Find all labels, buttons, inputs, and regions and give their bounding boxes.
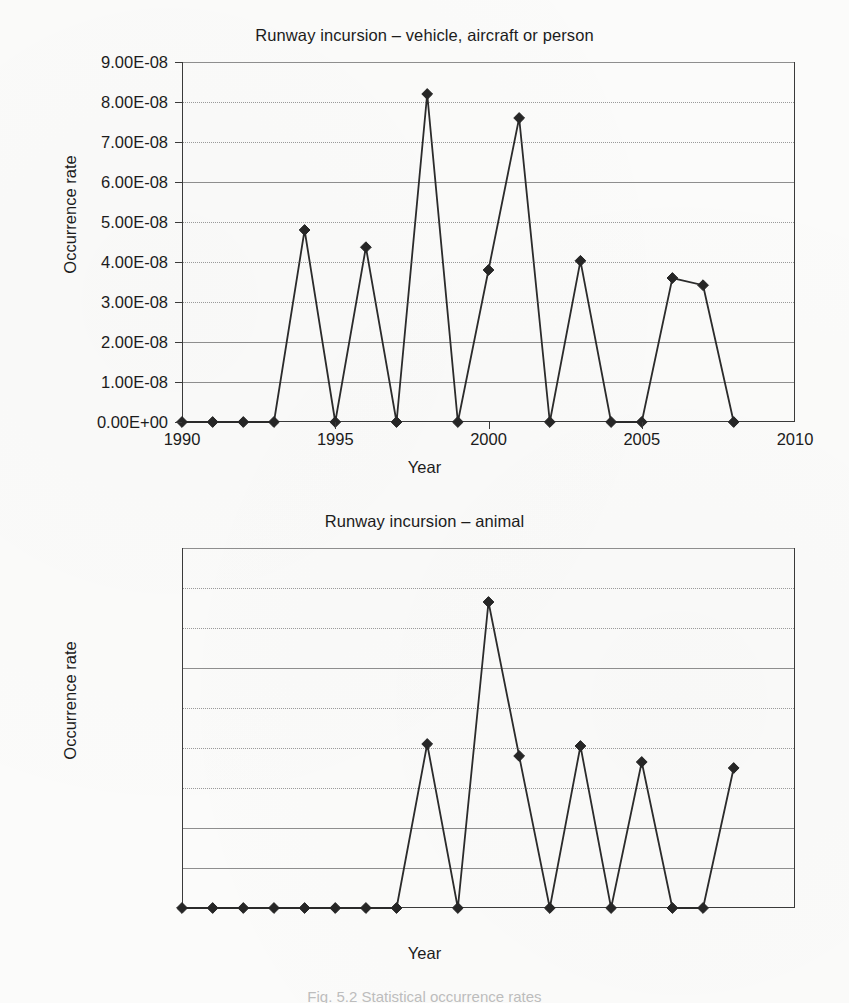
data-point-marker bbox=[636, 757, 647, 768]
data-point-marker bbox=[452, 903, 463, 914]
data-point-marker bbox=[422, 739, 433, 750]
y-axis-tick-mark bbox=[175, 62, 182, 63]
data-point-marker bbox=[207, 903, 218, 914]
x-axis-tick-label: 2005 bbox=[623, 430, 660, 449]
data-point-marker bbox=[575, 255, 586, 266]
chart-1-y-axis-title: Occurrence rate bbox=[61, 90, 80, 340]
data-point-marker bbox=[514, 751, 525, 762]
y-axis-tick-mark bbox=[175, 342, 182, 343]
chart-2-x-axis-title: Year bbox=[0, 944, 849, 963]
data-point-marker bbox=[667, 273, 678, 284]
y-axis-tick-label: 7.00E-08 bbox=[101, 133, 168, 152]
data-point-marker bbox=[422, 89, 433, 100]
chart-runway-incursion-vehicle: Runway incursion – vehicle, aircraft or … bbox=[0, 0, 849, 492]
y-axis-tick-label: 8.00E-08 bbox=[101, 93, 168, 112]
x-axis-tick-label: 1990 bbox=[164, 430, 201, 449]
data-point-marker bbox=[698, 903, 709, 914]
series-line bbox=[182, 602, 734, 908]
data-point-marker bbox=[606, 417, 617, 428]
data-point-marker bbox=[330, 903, 341, 914]
y-axis-tick-mark bbox=[175, 422, 182, 423]
y-axis-tick-mark bbox=[175, 262, 182, 263]
chart-2-title: Runway incursion – animal bbox=[0, 512, 849, 531]
data-point-marker bbox=[269, 903, 280, 914]
chart-runway-incursion-animal: Runway incursion – animal 0.00E+001.00E-… bbox=[0, 492, 849, 962]
y-axis-tick-label: 4.00E-08 bbox=[101, 253, 168, 272]
y-axis-tick-mark bbox=[175, 222, 182, 223]
data-point-marker bbox=[728, 763, 739, 774]
chart-2-series bbox=[182, 548, 795, 908]
data-point-marker bbox=[606, 903, 617, 914]
x-axis-tick-mark bbox=[489, 422, 490, 429]
y-axis-tick-label: 1.00E-08 bbox=[101, 373, 168, 392]
data-point-marker bbox=[544, 417, 555, 428]
y-axis-tick-mark bbox=[175, 182, 182, 183]
data-point-marker bbox=[728, 417, 739, 428]
data-point-marker bbox=[177, 903, 188, 914]
y-axis-tick-label: 2.00E-08 bbox=[101, 333, 168, 352]
y-axis-tick-label: 5.00E-08 bbox=[101, 213, 168, 232]
chart-1-title: Runway incursion – vehicle, aircraft or … bbox=[0, 26, 849, 45]
data-point-marker bbox=[483, 265, 494, 276]
data-point-marker bbox=[575, 741, 586, 752]
data-point-marker bbox=[207, 417, 218, 428]
data-point-marker bbox=[269, 417, 280, 428]
y-axis-tick-label: 9.00E-08 bbox=[101, 53, 168, 72]
y-axis-tick-mark bbox=[175, 102, 182, 103]
data-point-marker bbox=[698, 280, 709, 291]
data-point-marker bbox=[483, 597, 494, 608]
data-point-marker bbox=[667, 903, 678, 914]
x-axis-tick-mark bbox=[642, 422, 643, 429]
data-point-marker bbox=[361, 242, 372, 253]
y-axis-tick-label: 0.00E+00 bbox=[97, 413, 168, 432]
data-point-marker bbox=[514, 113, 525, 124]
y-axis-tick-label: 3.00E-08 bbox=[101, 293, 168, 312]
data-point-marker bbox=[238, 417, 249, 428]
data-point-marker bbox=[452, 417, 463, 428]
y-axis-tick-mark bbox=[175, 382, 182, 383]
y-axis-tick-label: 6.00E-08 bbox=[101, 173, 168, 192]
x-axis-tick-mark bbox=[335, 422, 336, 429]
data-point-marker bbox=[391, 417, 402, 428]
x-axis-tick-label: 2010 bbox=[777, 430, 814, 449]
chart-2-y-axis-title: Occurrence rate bbox=[61, 576, 80, 826]
y-axis-tick-mark bbox=[175, 302, 182, 303]
data-point-marker bbox=[544, 903, 555, 914]
y-axis-tick-mark bbox=[175, 142, 182, 143]
data-point-marker bbox=[299, 903, 310, 914]
data-point-marker bbox=[238, 903, 249, 914]
chart-1-x-axis-title: Year bbox=[0, 458, 849, 477]
data-point-marker bbox=[361, 903, 372, 914]
data-point-marker bbox=[299, 225, 310, 236]
figure-page: Runway incursion – vehicle, aircraft or … bbox=[0, 0, 849, 1003]
data-point-marker bbox=[391, 903, 402, 914]
x-axis-tick-label: 2000 bbox=[470, 430, 507, 449]
chart-1-series bbox=[182, 62, 795, 422]
series-line bbox=[182, 94, 734, 422]
x-axis-tick-label: 1995 bbox=[317, 430, 354, 449]
figure-caption: Fig. 5.2 Statistical occurrence rates bbox=[0, 988, 849, 1003]
